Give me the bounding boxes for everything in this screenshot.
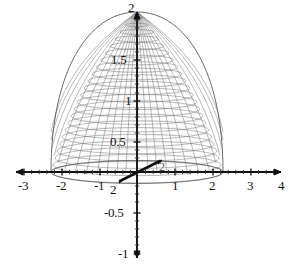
z-tick-label: 2 [128,1,134,14]
x-axis [16,169,281,176]
z-tick-label: 1 [125,94,131,107]
z-tick-label: -1 [118,247,128,260]
x-tick-label: -2 [56,179,66,192]
z-tick-label: -0.5 [104,206,123,219]
x-tick-label: 2 [209,179,215,192]
x-tick-label: 1 [172,179,178,192]
y-tick-label-positive: 2 [159,161,165,173]
surface-plot-figure: -3 -2 -1 1 2 3 4 2 1.5 1 0.5 -0.5 -1 2 2 [0,0,298,268]
x-tick-label: 3 [247,179,253,192]
z-tick-label: 0.5 [110,135,125,148]
z-tick-label: 1.5 [111,53,126,66]
y-tick-label-negative: 2 [110,183,116,196]
x-tick-label: -1 [94,179,104,192]
x-tick-label: 4 [278,179,284,192]
x-tick-label: -3 [18,179,28,192]
plot-canvas [0,0,298,268]
